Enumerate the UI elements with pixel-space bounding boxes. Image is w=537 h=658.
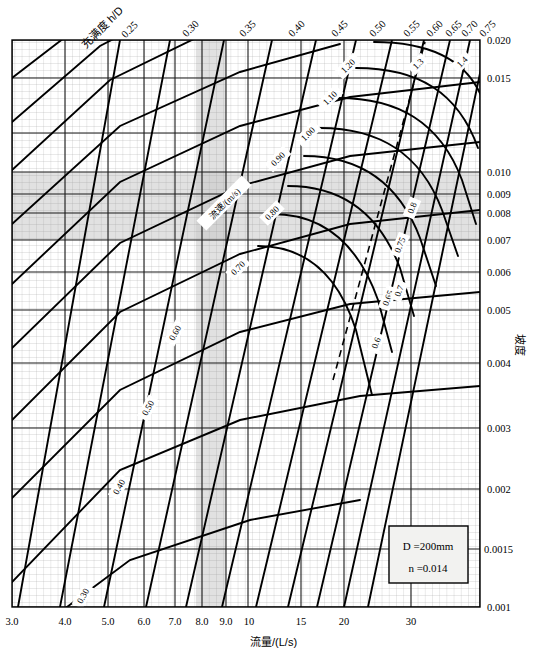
y-tick-label-9: 0.003 [487, 423, 511, 434]
y-tick-label-10: 0.002 [487, 484, 511, 495]
x-tick-label-2: 5.0 [101, 616, 114, 627]
x-tick-label-4: 7.0 [168, 616, 181, 627]
y-tick-label-8: 0.004 [487, 358, 511, 369]
x-tick-label-6: 9.0 [219, 616, 232, 627]
x-tick-label-5: 8.0 [195, 616, 208, 627]
legend-box: D =200mm n =0.014 [389, 526, 468, 583]
y-axis-title: 坡度 [514, 334, 527, 356]
x-tick-label-0: 3.0 [5, 616, 18, 627]
y-tick-label-7: 0.005 [487, 305, 511, 316]
y-tick-label-1: 0.015 [487, 73, 511, 84]
y-tick-label-5: 0.007 [487, 235, 511, 246]
y-tick-label-12: 0.001 [487, 602, 511, 613]
x-tick-label-1: 4.0 [58, 616, 71, 627]
nomograph-figure: 0.30 0.40 0.50 0.60 0.70 [0, 0, 537, 658]
x-tick-label-7: 10 [244, 616, 255, 627]
y-tick-label-11: 0.0015 [484, 544, 513, 555]
x-axis-title: 流量/(L/s) [250, 635, 297, 648]
x-tick-label-10: 30 [406, 616, 417, 627]
y-tick-label-4: 0.008 [487, 208, 511, 219]
nomograph-svg: 0.30 0.40 0.50 0.60 0.70 [0, 0, 537, 658]
x-tick-label-8: 15 [296, 616, 307, 627]
y-tick-label-6: 0.006 [487, 267, 511, 278]
svg-text:坡度: 坡度 [514, 334, 527, 356]
x-tick-label-9: 20 [339, 616, 350, 627]
y-tick-label-0: 0.020 [487, 35, 511, 46]
legend-roughness: n =0.014 [408, 562, 448, 574]
x-tick-label-3: 6.0 [137, 616, 150, 627]
legend-diameter: D =200mm [403, 540, 454, 552]
y-tick-label-3: 0.009 [487, 189, 511, 200]
y-tick-label-2: 0.010 [487, 167, 511, 178]
